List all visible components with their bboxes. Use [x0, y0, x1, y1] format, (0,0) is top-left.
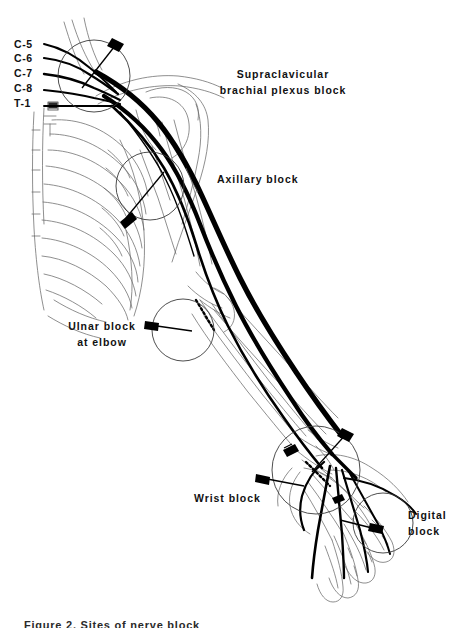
- nerve-block-illustration: [0, 0, 466, 628]
- anatomical-figure: C-5 C-6 C-7 C-8 T-1 Supraclavicular brac…: [0, 0, 466, 628]
